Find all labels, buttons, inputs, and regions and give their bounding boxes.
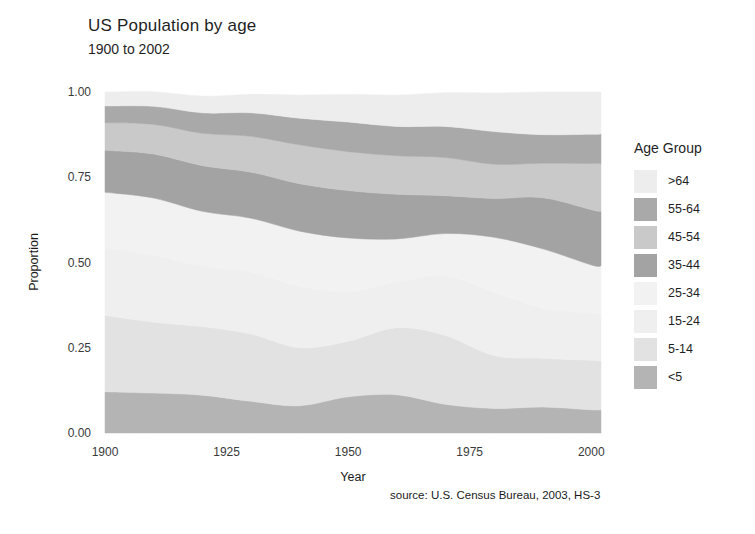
y-tick-label: 0.75: [68, 170, 92, 184]
legend-swatch: [634, 226, 657, 249]
chart-page: US Population by age 1900 to 2002 0.000.…: [0, 0, 755, 534]
legend-swatch: [634, 366, 657, 389]
legend-title: Age Group: [634, 140, 702, 156]
source-caption: source: U.S. Census Bureau, 2003, HS-3: [390, 489, 600, 501]
legend-item-label: 35-44: [668, 258, 700, 272]
x-tick-label: 1975: [456, 445, 483, 459]
legend-item: >64: [634, 167, 749, 195]
legend-item-label: 5-14: [668, 342, 693, 356]
x-tick-label: 1925: [213, 445, 240, 459]
legend-item: 25-34: [634, 279, 749, 307]
y-axis-ticks: 0.000.250.500.751.00: [68, 85, 92, 440]
y-tick-label: 1.00: [68, 85, 92, 99]
x-axis-ticks: 19001925195019752000: [92, 445, 605, 459]
legend-item-label: 25-34: [668, 286, 700, 300]
y-axis-label: Proportion: [27, 233, 41, 291]
legend-swatch: [634, 282, 657, 305]
legend-item: 55-64: [634, 195, 749, 223]
legend-item: 15-24: [634, 307, 749, 335]
y-tick-label: 0.25: [68, 341, 92, 355]
legend: >6455-6445-5435-4425-3415-245-14<5: [634, 167, 749, 391]
legend-item: 35-44: [634, 251, 749, 279]
legend-item-label: >64: [668, 174, 689, 188]
legend-item: 45-54: [634, 223, 749, 251]
legend-item-label: 55-64: [668, 202, 700, 216]
x-tick-label: 2000: [578, 445, 605, 459]
legend-swatch: [634, 170, 657, 193]
y-tick-label: 0.50: [68, 256, 92, 270]
legend-item-label: 15-24: [668, 314, 700, 328]
legend-swatch: [634, 338, 657, 361]
legend-item: <5: [634, 363, 749, 391]
legend-swatch: [634, 310, 657, 333]
legend-swatch: [634, 254, 657, 277]
y-tick-label: 0.00: [68, 426, 92, 440]
legend-swatch: [634, 198, 657, 221]
x-tick-label: 1950: [335, 445, 362, 459]
legend-item-label: <5: [668, 370, 682, 384]
x-tick-label: 1900: [92, 445, 119, 459]
x-axis-label: Year: [340, 470, 365, 484]
area-bands: [105, 91, 601, 433]
legend-item: 5-14: [634, 335, 749, 363]
legend-item-label: 45-54: [668, 230, 700, 244]
